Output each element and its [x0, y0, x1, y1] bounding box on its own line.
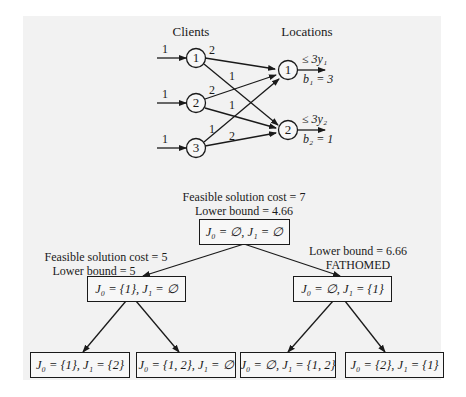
root-annotation-bound: Lower bound = 4.66: [195, 205, 293, 218]
client-2-demand: 1: [162, 88, 168, 101]
edge-c2-l1: [205, 75, 276, 99]
client-2-label: 2: [193, 96, 200, 109]
edge-c2-l2-cost: 1: [229, 99, 235, 112]
tree-leaf-4: J₀ = {2}, J₁ = {1}: [345, 352, 444, 378]
location-1-capacity: ≤ 3y₁: [302, 53, 327, 66]
clients-heading: Clients: [173, 25, 210, 38]
edge-c1-l2-cost: 1: [229, 70, 235, 83]
edge-c1-l2: [204, 64, 278, 125]
tree-edge-left-leaf1: [83, 301, 126, 352]
right-annotation-fathomed: FATHOMED: [326, 259, 390, 272]
edge-c3-l2: [205, 133, 276, 146]
tree-leaf-2: J₀ = {1, 2}, J₁ = ∅: [136, 352, 236, 378]
client-1-demand: 1: [162, 43, 168, 56]
edge-c2-l1-cost: 2: [209, 84, 215, 97]
location-2-b: b₂ = 1: [303, 133, 333, 146]
tree-node-left: J₀ = {1}, J₁ = ∅: [87, 276, 186, 302]
tree-edge-right-leaf4: [345, 301, 385, 352]
client-3-label: 3: [193, 141, 200, 154]
location-1-label: 1: [285, 63, 292, 76]
client-1-label: 1: [193, 51, 200, 64]
left-annotation-cost: Feasible solution cost = 5: [45, 251, 168, 264]
tree-leaf-3: J₀ = ∅, J₁ = {1, 2}: [240, 352, 336, 378]
right-annotation-bound: Lower bound = 6.66: [309, 245, 407, 258]
location-2-capacity: ≤ 3y₂: [302, 113, 327, 126]
tree-leaf-1: J₀ = {1}, J₁ = {2}: [30, 352, 130, 378]
edge-c3-l1-cost: 1: [209, 123, 215, 136]
locations-heading: Locations: [281, 25, 332, 38]
tree-edge-left-leaf2: [136, 301, 179, 352]
edge-c1-l1-cost: 2: [209, 44, 215, 57]
tree-edge-right-leaf3: [288, 301, 333, 352]
tree-node-right: J₀ = ∅, J₁ = {1}: [293, 276, 392, 302]
edge-c1-l1: [205, 58, 275, 69]
edge-c3-l2-cost: 2: [229, 130, 235, 143]
location-1-b: b₁ = 3: [303, 73, 333, 86]
client-3-demand: 1: [162, 133, 168, 146]
root-annotation-cost: Feasible solution cost = 7: [183, 191, 306, 204]
tree-node-root: J₀ = ∅, J₁ = ∅: [199, 219, 290, 245]
location-2-label: 2: [285, 123, 292, 136]
